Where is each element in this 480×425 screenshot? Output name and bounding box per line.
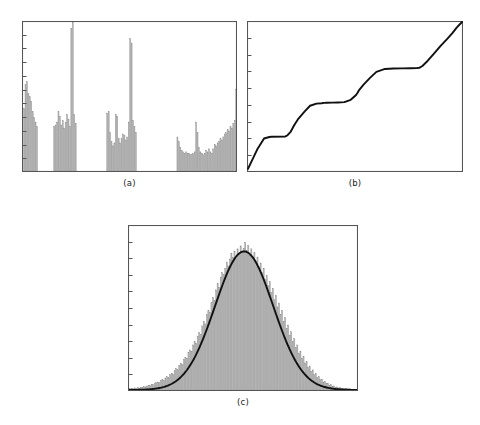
panel-b: (b) bbox=[247, 21, 463, 172]
panel-c: (c) bbox=[128, 225, 358, 391]
panel-a-caption: (a) bbox=[22, 177, 237, 189]
panel-a-plot bbox=[22, 21, 237, 172]
panel-b-plot bbox=[247, 21, 463, 172]
panel-b-svg bbox=[247, 21, 463, 172]
panel-b-caption: (b) bbox=[247, 177, 463, 189]
panel-c-caption: (c) bbox=[128, 396, 358, 408]
panel-a: (a) bbox=[22, 21, 237, 172]
panel-c-svg bbox=[128, 225, 358, 391]
figure-root: (a) (b) (c) bbox=[0, 0, 480, 425]
panel-c-plot bbox=[128, 225, 358, 391]
panel-a-svg bbox=[22, 21, 237, 172]
